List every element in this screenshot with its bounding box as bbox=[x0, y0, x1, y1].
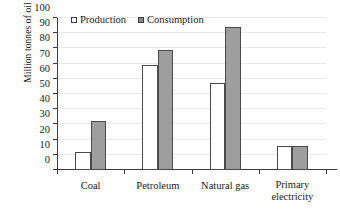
y-axis-tick-label: 80 bbox=[40, 33, 51, 44]
bar-production-natural-gas bbox=[210, 83, 225, 170]
x-axis-tick bbox=[192, 170, 193, 174]
y-axis-tick-label: 40 bbox=[40, 94, 51, 105]
bar-consumption-petroleum bbox=[158, 50, 173, 170]
chart-legend: Production Consumption bbox=[71, 14, 204, 26]
gridline bbox=[57, 108, 326, 109]
y-axis-tick bbox=[53, 32, 57, 33]
y-axis-tick-label: 50 bbox=[40, 79, 51, 90]
plot-area: 0102030405060708090100 CoalPetroleumNatu… bbox=[57, 18, 326, 170]
y-axis-tick bbox=[53, 123, 57, 124]
x-axis-tick bbox=[326, 170, 327, 174]
gridline bbox=[57, 32, 326, 33]
y-axis-tick bbox=[53, 63, 57, 64]
gridline bbox=[57, 93, 326, 94]
legend-label-consumption: Consumption bbox=[147, 14, 204, 26]
y-axis-tick-label: 60 bbox=[40, 64, 51, 75]
y-axis-tick-label: 30 bbox=[40, 109, 51, 120]
legend-item-consumption: Consumption bbox=[138, 14, 204, 26]
y-axis-tick bbox=[53, 139, 57, 140]
y-axis-tick bbox=[53, 17, 57, 18]
gridline bbox=[57, 63, 326, 64]
x-axis-label: Primaryelectricity bbox=[271, 179, 313, 202]
y-axis-tick-label: 0 bbox=[45, 155, 50, 166]
gridline bbox=[57, 47, 326, 48]
y-axis-tick bbox=[53, 47, 57, 48]
y-axis-tick-label: 70 bbox=[40, 48, 51, 59]
y-axis-tick-label: 10 bbox=[40, 140, 51, 151]
bar-chart-figure: Million tonnes of oil equivalent 0102030… bbox=[0, 0, 340, 220]
x-axis-label: Petroleum bbox=[136, 179, 179, 191]
bar-consumption-natural-gas bbox=[225, 27, 240, 170]
gridline bbox=[57, 78, 326, 79]
legend-swatch-consumption-icon bbox=[138, 17, 144, 23]
bar-consumption-primary-electricity bbox=[292, 146, 307, 170]
legend-label-production: Production bbox=[80, 14, 126, 26]
bar-production-coal bbox=[75, 152, 90, 170]
x-axis-label: Coal bbox=[81, 179, 101, 191]
y-axis-tick-label: 90 bbox=[40, 18, 51, 29]
x-axis-tick bbox=[57, 170, 58, 174]
bar-consumption-coal bbox=[91, 121, 106, 170]
bar-production-primary-electricity bbox=[277, 146, 292, 170]
legend-swatch-production-icon bbox=[71, 17, 77, 23]
x-axis-tick bbox=[124, 170, 125, 174]
y-axis-tick bbox=[53, 93, 57, 94]
legend-item-production: Production bbox=[71, 14, 126, 26]
y-axis-line bbox=[57, 18, 58, 170]
bar-production-petroleum bbox=[142, 65, 157, 170]
x-axis-tick bbox=[259, 170, 260, 174]
y-axis-tick bbox=[53, 108, 57, 109]
y-axis-tick bbox=[53, 154, 57, 155]
y-axis-tick-label: 20 bbox=[40, 124, 51, 135]
y-axis-tick-label: 100 bbox=[34, 3, 50, 14]
x-axis-label: Natural gas bbox=[201, 179, 249, 191]
y-axis-title: Million tonnes of oil equivalent bbox=[21, 0, 35, 101]
y-axis-tick bbox=[53, 78, 57, 79]
